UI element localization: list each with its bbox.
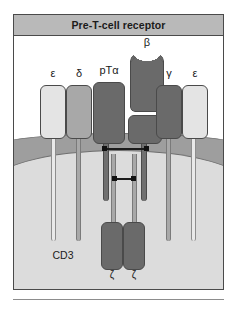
label-epsilon-left: ε bbox=[40, 67, 66, 79]
cd3-epsilon-left-domain bbox=[40, 85, 66, 139]
disulfide-bond-lower-node-right bbox=[131, 176, 136, 181]
label-cd3-complex: CD3 bbox=[38, 249, 88, 261]
figure-title-bar: Pre-T-cell receptor bbox=[14, 15, 223, 36]
zeta-left-stalk bbox=[111, 154, 116, 222]
figure-frame: Pre-T-cell receptor ε δ pTα bbox=[13, 14, 224, 290]
label-beta: β bbox=[130, 36, 164, 48]
zeta-right-stalk bbox=[132, 154, 137, 222]
cd3-delta-tail bbox=[76, 169, 81, 241]
cd3-epsilon-right-tail bbox=[191, 169, 196, 241]
zeta-right-domain bbox=[123, 222, 145, 270]
cd3-epsilon-right-domain bbox=[182, 85, 208, 139]
zeta-left-domain bbox=[101, 222, 123, 270]
disulfide-bond-upper-node-left bbox=[102, 146, 107, 151]
label-epsilon-right: ε bbox=[182, 67, 208, 79]
cd3-gamma-tail bbox=[166, 169, 171, 241]
label-delta: δ bbox=[66, 67, 92, 79]
label-ptalpha: pTα bbox=[90, 64, 128, 76]
cd3-delta-domain bbox=[66, 85, 92, 139]
cd3-epsilon-left-tail bbox=[51, 169, 56, 241]
figure-title: Pre-T-cell receptor bbox=[71, 19, 165, 31]
disulfide-bond-upper-node-right bbox=[144, 146, 149, 151]
label-zeta-left: ζ bbox=[101, 269, 123, 280]
ptalpha-domain bbox=[93, 82, 125, 144]
pre-tcr-figure: Pre-T-cell receptor ε δ pTα bbox=[0, 0, 237, 310]
disulfide-bond-upper-bar bbox=[106, 148, 146, 150]
label-gamma: γ bbox=[156, 67, 182, 79]
cd3-gamma-domain bbox=[156, 85, 182, 139]
diagram-canvas: ε δ pTα β bbox=[14, 36, 223, 289]
label-zeta-right: ζ bbox=[123, 269, 145, 280]
disulfide-bond-lower-node-left bbox=[112, 176, 117, 181]
figure-bottom-rule bbox=[13, 299, 224, 300]
